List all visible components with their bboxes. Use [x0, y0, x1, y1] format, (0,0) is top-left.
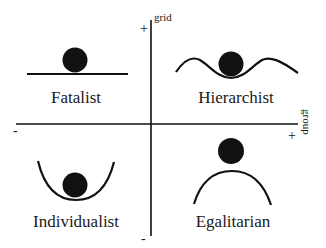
quadrant-hierarchist: Hierarchist [176, 52, 298, 108]
ball-icon [218, 138, 244, 164]
grid-axis-label: grid [154, 11, 172, 23]
egalitarian-label: Egalitarian [196, 212, 271, 231]
ball-icon [63, 48, 88, 73]
group-negative-sign: - [13, 123, 18, 138]
hill-curve-icon [194, 171, 271, 205]
ball-icon [219, 52, 244, 77]
grid-negative-sign: - [141, 231, 146, 246]
ball-icon [63, 173, 88, 198]
individualist-label: Individualist [33, 212, 119, 231]
grid-group-diagram: grid + - group + - Fatalist Hierarchist … [0, 0, 326, 248]
quadrant-egalitarian: Egalitarian [194, 138, 271, 231]
fatalist-label: Fatalist [51, 88, 101, 107]
grid-positive-sign: + [140, 21, 148, 36]
group-positive-sign: + [288, 128, 296, 143]
hierarchist-label: Hierarchist [198, 88, 274, 107]
axes: grid + - group + - [13, 11, 313, 246]
quadrant-individualist: Individualist [33, 161, 119, 231]
group-axis-label: group [301, 109, 313, 135]
quadrant-fatalist: Fatalist [27, 48, 128, 108]
